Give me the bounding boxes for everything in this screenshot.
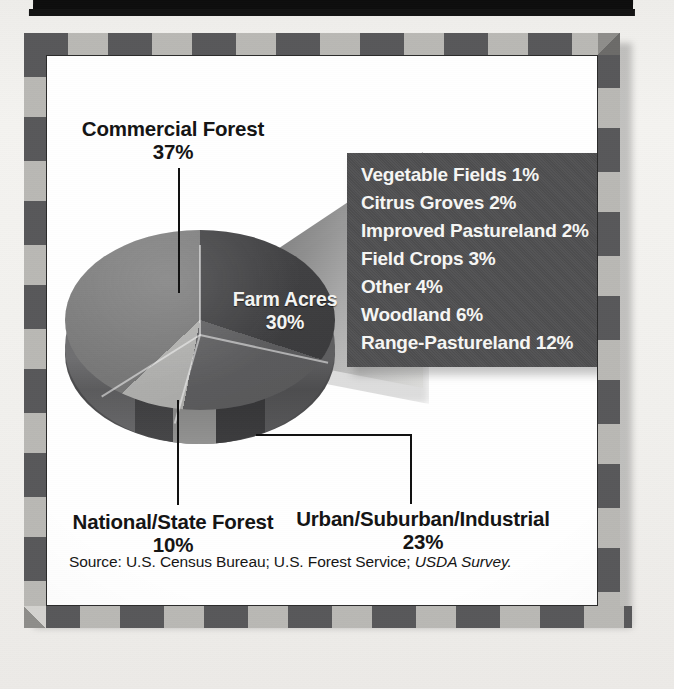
frame-segment xyxy=(540,606,584,628)
frame-segment xyxy=(24,537,46,581)
frame-segment xyxy=(360,33,404,55)
frame-segment xyxy=(24,117,46,161)
source-note: Source: U.S. Census Bureau; U.S. Forest … xyxy=(69,553,512,571)
frame-band-top xyxy=(24,33,620,55)
pie-graphic: Farm Acres 30% xyxy=(65,216,355,461)
page-edge-black-bar xyxy=(33,0,633,16)
legend-box: Vegetable Fields 1% Citrus Groves 2% Imp… xyxy=(347,153,597,367)
frame-segment xyxy=(598,464,620,508)
leader-line-national-state-forest xyxy=(177,400,179,505)
frame-segment xyxy=(24,201,46,245)
list-item: Woodland 6% xyxy=(361,301,587,329)
frame-segment xyxy=(598,548,620,592)
pie-chart: Vegetable Fields 1% Citrus Groves 2% Imp… xyxy=(47,56,597,605)
source-note-prefix: Source: U.S. Census Bureau; U.S. Forest … xyxy=(69,553,415,570)
leader-line-urban-vertical xyxy=(410,434,412,504)
frame-segment xyxy=(624,606,632,628)
frame-segment xyxy=(456,606,500,628)
frame-segment xyxy=(372,606,416,628)
frame-bevel-bottom-left xyxy=(24,606,46,628)
frame-segment xyxy=(120,606,164,628)
slice-label-farm-acres-name: Farm Acres xyxy=(233,288,338,310)
leader-line-commercial-forest xyxy=(178,168,180,293)
slice-label-urban-suburban-industrial: Urban/Suburban/Industrial 23% xyxy=(289,508,557,554)
frame-bevel-top-right xyxy=(598,33,620,55)
frame-segment xyxy=(204,606,248,628)
frame-segment xyxy=(108,33,152,55)
list-item: Field Crops 3% xyxy=(361,245,587,273)
chart-plate: Vegetable Fields 1% Citrus Groves 2% Imp… xyxy=(46,55,598,606)
slice-label-national-state-forest-name: National/State Forest xyxy=(73,510,274,533)
frame-segment xyxy=(24,369,46,413)
figure-frame: Vegetable Fields 1% Citrus Groves 2% Imp… xyxy=(24,33,632,628)
frame-segment xyxy=(444,33,488,55)
frame-segment xyxy=(276,33,320,55)
slice-separator xyxy=(199,245,201,335)
list-item: Vegetable Fields 1% xyxy=(361,161,587,189)
frame-segment xyxy=(528,33,572,55)
frame-band-right xyxy=(598,44,620,628)
list-item: Citrus Groves 2% xyxy=(361,189,587,217)
slice-label-commercial-forest: Commercial Forest 37% xyxy=(73,118,273,164)
source-note-italic: USDA Survey. xyxy=(415,553,512,570)
frame-band-left xyxy=(24,33,46,617)
slice-label-farm-acres: Farm Acres 30% xyxy=(215,288,355,333)
frame-segment xyxy=(288,606,332,628)
frame-segment xyxy=(192,33,236,55)
leader-line-urban-horizontal xyxy=(256,434,412,436)
frame-segment xyxy=(598,128,620,172)
frame-segment xyxy=(598,380,620,424)
slice-label-national-state-forest: National/State Forest 10% xyxy=(53,511,293,557)
frame-segment xyxy=(24,453,46,497)
slice-label-urban-suburban-industrial-pct: 23% xyxy=(289,531,557,554)
slice-label-urban-suburban-industrial-name: Urban/Suburban/Industrial xyxy=(296,507,550,530)
frame-band-bottom xyxy=(36,606,632,628)
list-item: Range-Pastureland 12% xyxy=(361,329,587,357)
slice-label-farm-acres-pct: 30% xyxy=(266,311,304,333)
list-item: Other 4% xyxy=(361,273,587,301)
slice-label-commercial-forest-name: Commercial Forest xyxy=(82,117,264,140)
slice-label-commercial-forest-pct: 37% xyxy=(73,141,273,164)
frame-segment xyxy=(24,33,46,77)
list-item: Improved Pastureland 2% xyxy=(361,217,587,245)
frame-segment xyxy=(598,212,620,256)
frame-segment xyxy=(598,296,620,340)
frame-segment xyxy=(24,285,46,329)
